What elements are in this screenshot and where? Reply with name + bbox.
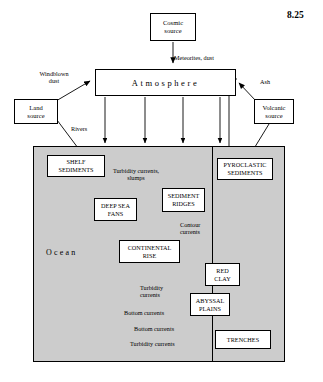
figure-canvas: 8.25 Ocean Atmosphere — [0, 0, 323, 382]
box-pyroclastic-sediments: PYROCLASTICSEDIMENTS — [217, 158, 273, 180]
label-turbidity-currents-1: Turbiditycurrents — [140, 284, 174, 299]
box-red-clay: REDCLAY — [205, 263, 240, 286]
box-continental-rise: CONTINENTALRISE — [119, 240, 180, 263]
box-shelf-sediments: SHELFSEDIMENTS — [47, 155, 105, 177]
label-bottom-currents-1: Bottom currents — [124, 309, 186, 316]
ocean-label: Ocean — [46, 248, 77, 257]
box-trenches: TRENCHES — [215, 330, 271, 349]
box-sediment-ridges: SEDIMENTRIDGES — [162, 188, 205, 212]
label-turbidity-currents-2: Turbidity currents — [130, 340, 200, 347]
box-abyssal-plains: ABYSSALPLAINS — [190, 293, 230, 316]
box-land-source: Landsource — [14, 99, 58, 124]
label-windblown-dust: Windblowndust — [26, 70, 82, 85]
label-meteorites-dust: Meteorites, dust — [174, 54, 244, 61]
box-volcanic-source: Volcanicsource — [254, 99, 294, 124]
atmosphere-box: Atmosphere — [95, 69, 236, 96]
label-turbidity-slumps: Turbidity currents,slumps — [102, 167, 170, 182]
label-contour-currents: Contourcurrents — [180, 221, 216, 236]
ocean-divider-line — [212, 147, 213, 361]
figure-number: 8.25 — [287, 10, 304, 20]
label-rivers: Rivers — [71, 125, 101, 132]
box-cosmic-source: Cosmicsource — [150, 13, 196, 41]
box-deep-sea-fans: DEEP SEAFANS — [94, 198, 137, 221]
label-ash: Ash — [260, 78, 282, 85]
label-bottom-currents-2: Bottom currents — [134, 325, 196, 332]
